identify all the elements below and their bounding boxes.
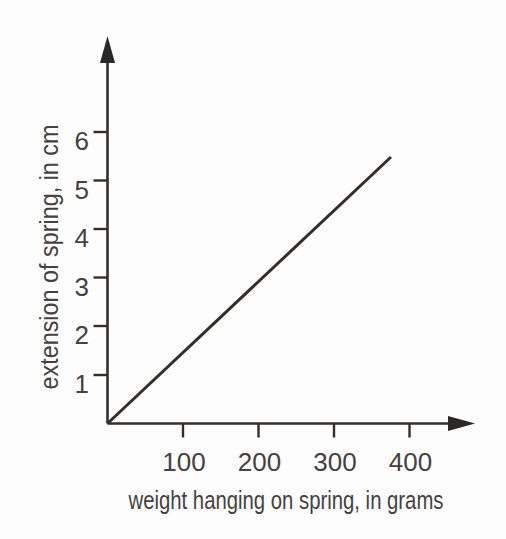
spring-extension-chart: 1 2 3 4 5 6 100 200 300 400 weight hangi…: [0, 0, 506, 539]
data-line: [108, 157, 392, 424]
y-tick-label: 3: [75, 272, 89, 302]
y-axis-arrow-icon: [100, 36, 115, 63]
x-tick-label: 400: [389, 447, 432, 477]
x-tick-label: 200: [238, 447, 281, 477]
y-tick-label: 2: [75, 320, 89, 350]
y-tick-label: 4: [75, 223, 89, 253]
x-tick-label: 100: [162, 447, 205, 477]
y-tick-label: 5: [75, 175, 89, 205]
x-axis-title: weight hanging on spring, in grams: [128, 485, 444, 515]
y-axis-title: extension of spring, in cm: [34, 125, 64, 390]
x-tick-label: 300: [313, 447, 356, 477]
y-tick-label: 6: [75, 126, 89, 156]
y-tick-label: 1: [75, 369, 89, 399]
chart-canvas: 1 2 3 4 5 6 100 200 300 400 weight hangi…: [0, 0, 506, 539]
x-axis-arrow-icon: [448, 416, 475, 431]
